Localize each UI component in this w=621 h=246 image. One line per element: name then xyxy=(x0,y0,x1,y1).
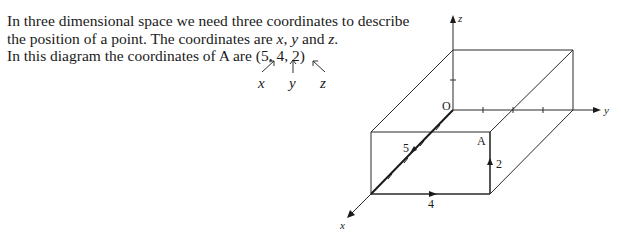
z-step-label: 2 xyxy=(496,157,502,171)
z-axis-label: z xyxy=(457,12,463,24)
origin-label: O xyxy=(442,99,451,113)
y-axis-label: y xyxy=(603,104,609,116)
z-path-arrowhead xyxy=(487,158,493,165)
z-axis-arrowhead xyxy=(450,15,456,23)
point-a-label: A xyxy=(477,134,486,148)
3d-coordinate-diagram: z y x O A 5 4 2 xyxy=(0,0,621,246)
y-step-label: 4 xyxy=(428,197,434,211)
x-axis-label: x xyxy=(339,219,345,231)
x-step-label: 5 xyxy=(403,141,409,155)
x-axis-extension xyxy=(351,194,371,214)
y-axis-arrowhead xyxy=(593,107,601,113)
